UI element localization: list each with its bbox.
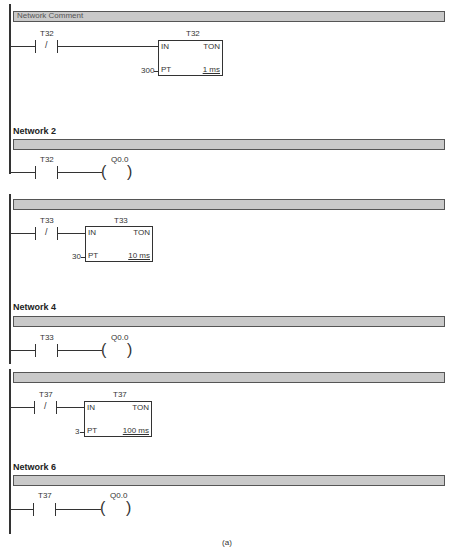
pt-wire <box>154 71 158 72</box>
timer-resolution: 1 ms <box>203 65 220 74</box>
rung-wire <box>11 172 35 173</box>
figure-caption: (a) <box>0 538 454 547</box>
rung-wire <box>11 350 35 351</box>
contact-address: T37 <box>38 491 52 500</box>
rung-wire <box>11 509 33 510</box>
contact-nc[interactable] <box>34 401 35 414</box>
coil-right-icon: ) <box>127 342 132 358</box>
timer-block-ton[interactable]: IN TON PT 10 ms <box>85 226 153 262</box>
network-comment-bar[interactable]: Network Comment <box>13 11 445 22</box>
timer-in-pin: IN <box>88 228 96 237</box>
pt-wire <box>81 257 85 258</box>
timer-pt-pin: PT <box>161 65 171 74</box>
network-label: Network 6 <box>13 462 56 472</box>
nc-slash-icon: / <box>45 227 48 237</box>
network-label: Network 2 <box>13 126 56 136</box>
timer-pt-value[interactable]: 30 <box>72 252 81 261</box>
timer-resolution: 100 ms <box>123 426 149 435</box>
power-rail <box>9 194 11 364</box>
rung-wire <box>11 407 35 408</box>
timer-type: TON <box>132 403 149 412</box>
contact-address: T33 <box>40 333 54 342</box>
timer-block-ton[interactable]: IN TON PT 100 ms <box>84 401 152 437</box>
rung-wire <box>56 407 84 408</box>
network-comment-bar[interactable] <box>13 139 445 150</box>
contact-address: T37 <box>39 390 53 399</box>
nc-slash-icon: / <box>45 40 48 50</box>
rung-wire <box>57 172 102 173</box>
coil-right-icon: ) <box>126 500 131 516</box>
contact-nc[interactable] <box>35 40 36 53</box>
timer-in-pin: IN <box>161 42 169 51</box>
coil-left-icon[interactable]: ( <box>101 164 106 180</box>
contact-no[interactable] <box>35 166 36 179</box>
network-comment-text: Network Comment <box>17 11 83 20</box>
rung-wire <box>57 350 102 351</box>
timer-block-ton[interactable]: IN TON PT 1 ms <box>158 40 223 76</box>
timer-pt-pin: PT <box>87 426 97 435</box>
network-label: Network 4 <box>13 302 56 312</box>
coil-address: Q0.0 <box>110 491 127 500</box>
rung-wire <box>11 233 35 234</box>
contact-address: T32 <box>40 155 54 164</box>
timer-type: TON <box>203 42 220 51</box>
contact-nc[interactable] <box>35 227 36 240</box>
rung-wire <box>57 233 85 234</box>
rung-wire <box>55 509 101 510</box>
timer-address: T32 <box>186 29 200 38</box>
coil-address: Q0.0 <box>111 155 128 164</box>
coil-address: Q0.0 <box>111 333 128 342</box>
coil-left-icon[interactable]: ( <box>100 500 105 516</box>
timer-in-pin: IN <box>87 403 95 412</box>
timer-type: TON <box>133 228 150 237</box>
network-comment-bar[interactable] <box>13 372 445 383</box>
coil-left-icon[interactable]: ( <box>101 342 106 358</box>
rung-wire <box>57 46 158 47</box>
timer-resolution: 10 ms <box>128 251 150 260</box>
contact-no[interactable] <box>33 503 34 516</box>
network-comment-bar[interactable] <box>13 475 445 486</box>
timer-pt-value[interactable]: 3 <box>75 427 79 436</box>
coil-right-icon: ) <box>127 164 132 180</box>
contact-address: T32 <box>40 29 54 38</box>
network-comment-bar[interactable] <box>13 316 445 327</box>
contact-no[interactable] <box>35 344 36 357</box>
power-rail <box>9 4 11 174</box>
timer-address: T37 <box>113 390 127 399</box>
pt-wire <box>80 432 84 433</box>
nc-slash-icon: / <box>44 401 47 411</box>
timer-address: T33 <box>114 216 128 225</box>
timer-pt-pin: PT <box>88 251 98 260</box>
timer-pt-value[interactable]: 300 <box>141 66 154 75</box>
rung-wire <box>11 46 35 47</box>
contact-address: T33 <box>40 216 54 225</box>
network-comment-bar[interactable] <box>13 199 445 210</box>
